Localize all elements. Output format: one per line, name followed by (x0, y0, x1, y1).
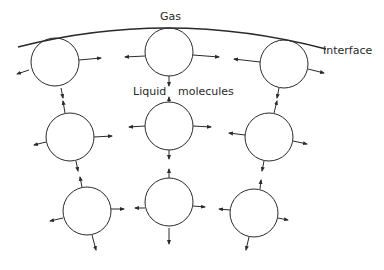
force-arrow-icon (129, 126, 145, 127)
molecule-bottom-left (50, 177, 124, 250)
force-arrow-icon (76, 161, 78, 171)
force-arrow-icon (229, 133, 245, 135)
molecule-top-left (17, 38, 101, 98)
molecule-bottom-right (219, 180, 288, 250)
molecule-bottom-center (135, 169, 205, 244)
force-arrow-icon (34, 142, 46, 145)
force-arrow-icon (277, 88, 279, 98)
force-arrow-icon (278, 218, 288, 220)
molecule-top-center (125, 28, 219, 86)
force-arrow-icon (94, 136, 112, 137)
force-arrow-icon (92, 235, 96, 250)
molecule-circle (230, 189, 278, 237)
molecule-middle-right (229, 101, 307, 171)
force-arrow-icon (63, 101, 65, 113)
force-arrow-icon (219, 209, 230, 210)
molecule-circle (145, 178, 193, 226)
force-arrow-icon (193, 55, 219, 57)
force-arrow-icon (125, 56, 145, 57)
molecule-circle (245, 113, 293, 161)
interface-diagram (0, 0, 384, 270)
force-arrow-icon (17, 70, 29, 74)
molecule-top-right (234, 40, 324, 98)
molecule-middle-center (129, 97, 211, 159)
molecule-circle (145, 102, 193, 150)
molecules-layer (17, 28, 324, 250)
interface-curve (18, 28, 326, 49)
force-arrow-icon (80, 177, 82, 187)
molecule-circle (31, 38, 79, 86)
interface-label: Interface (323, 44, 372, 57)
liquid-label: Liquid (133, 85, 166, 98)
force-arrow-icon (234, 59, 260, 62)
force-arrow-icon (293, 141, 307, 144)
molecules-label: molecules (178, 85, 234, 98)
force-arrow-icon (193, 126, 211, 127)
force-arrow-icon (260, 180, 261, 189)
gas-label: Gas (160, 10, 181, 23)
force-arrow-icon (79, 58, 101, 60)
molecule-circle (63, 187, 111, 235)
force-arrow-icon (246, 237, 249, 250)
force-arrow-icon (50, 218, 63, 221)
force-arrow-icon (274, 101, 277, 113)
molecule-circle (46, 113, 94, 161)
force-arrow-icon (262, 161, 264, 171)
molecule-circle (145, 28, 193, 76)
force-arrow-icon (61, 88, 63, 98)
force-arrow-icon (193, 206, 205, 207)
molecule-circle (260, 40, 308, 88)
molecule-middle-left (34, 101, 112, 171)
force-arrow-icon (308, 69, 324, 73)
